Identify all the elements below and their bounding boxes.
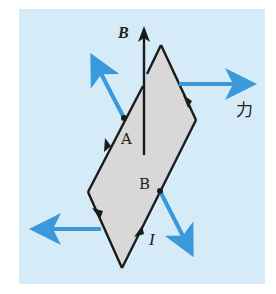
point-a-dot xyxy=(121,115,127,121)
force-label: 力 xyxy=(236,100,253,120)
point-b-label: B xyxy=(139,175,150,193)
point-b-dot xyxy=(157,188,163,194)
diagram-canvas: B A B I 力 xyxy=(0,0,276,294)
point-a-label: A xyxy=(120,130,132,148)
force-arrow-at-b xyxy=(160,191,190,250)
field-label: B xyxy=(117,24,129,41)
force-arrow-at-a xyxy=(94,60,124,118)
current-label: I xyxy=(148,230,156,249)
